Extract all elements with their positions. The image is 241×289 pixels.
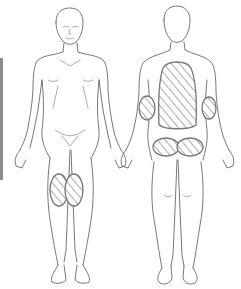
marked-region-back-torso: [159, 62, 197, 129]
marked-region-back-left-elbow: [139, 96, 155, 120]
front-figure: [15, 8, 126, 283]
body-diagram: [0, 0, 241, 289]
marked-region-back-right-elbow: [202, 97, 216, 119]
marked-region-back-right-buttock: [177, 138, 203, 156]
marked-region-front-right-knee: [65, 174, 83, 206]
marked-region-back-left-buttock: [153, 138, 179, 156]
